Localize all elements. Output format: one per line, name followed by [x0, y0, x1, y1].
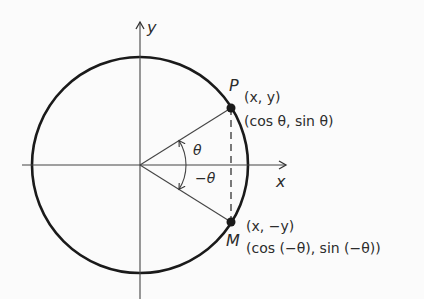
y-axis-label: y — [147, 20, 156, 36]
point-p-coords: (x, y) — [244, 89, 280, 105]
x-axis-label: x — [276, 174, 285, 190]
neg-theta-label: −θ — [195, 170, 215, 186]
point-p-name: P — [229, 78, 239, 94]
point-m — [227, 218, 236, 227]
point-m-coords: (x, −y) — [246, 218, 294, 234]
point-m-name: M — [226, 233, 240, 249]
point-m-trig: (cos (−θ), sin (−θ)) — [246, 240, 381, 256]
theta-arc — [179, 141, 186, 165]
theta-label: θ — [193, 142, 202, 158]
neg-theta-arc — [179, 165, 186, 189]
point-p — [227, 104, 236, 113]
point-p-trig: (cos θ, sin θ) — [244, 113, 333, 129]
diagram-canvas: y x θ −θ P (x, y) (cos θ, sin θ) (x, −y)… — [0, 0, 424, 299]
